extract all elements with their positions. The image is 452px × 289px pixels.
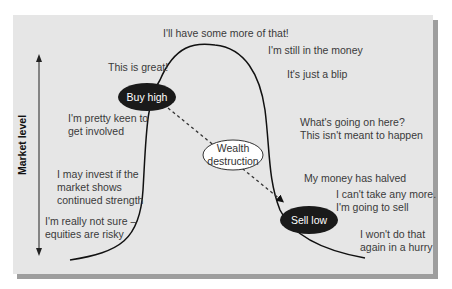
arrow-down-icon xyxy=(36,248,42,256)
axis-label-market-level: Market level xyxy=(16,115,28,175)
label-just-a-blip: It's just a blip xyxy=(287,68,347,81)
buy-high-label: Buy high xyxy=(127,91,168,103)
label-whats-going-on: What's going on here? This isn't meant t… xyxy=(300,116,423,142)
label-this-is-great: This is great! xyxy=(108,61,168,74)
label-not-sure: I'm really not sure – equities are risky xyxy=(45,215,136,241)
label-still-in-money: I'm still in the money xyxy=(268,44,363,57)
label-wont-do-that: I won't do that again in a hurry xyxy=(360,228,432,254)
label-cant-take-more: I can't take any more. I'm going to sell xyxy=(336,188,436,214)
label-money-halved: My money has halved xyxy=(304,172,406,185)
market-level-axis xyxy=(36,54,42,256)
label-may-invest: I may invest if the market shows continu… xyxy=(57,168,143,207)
sell-low-label: Sell low xyxy=(291,214,327,226)
wealth-destruction-label: Wealth destruction xyxy=(207,142,258,168)
arrow-up-icon xyxy=(36,54,42,62)
label-peak: I'll have some more of that! xyxy=(163,27,289,40)
label-pretty-keen: I'm pretty keen to get involved xyxy=(68,112,148,138)
